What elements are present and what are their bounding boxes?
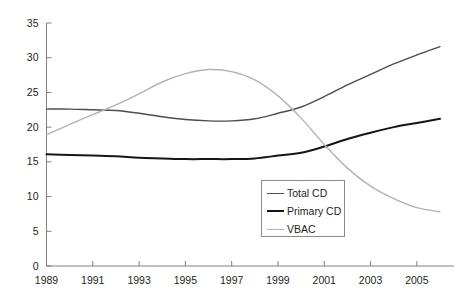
y-tick-label: 15 [17,156,39,167]
legend-swatch-total-cd [267,193,284,194]
y-tick-label: 25 [17,87,39,98]
x-tick-label: 2005 [396,275,438,286]
y-tick-label: 0 [17,261,39,272]
y-tick-label: 20 [17,122,39,133]
x-tick-label: 2003 [350,275,392,286]
x-tick-label: 1993 [118,275,160,286]
legend-label-vbac: VBAC [287,224,316,235]
series-line-primary-cd [47,119,441,159]
x-tick-label: 1999 [257,275,299,286]
legend-swatch-primary-cd [267,210,284,212]
y-tick-label: 10 [17,191,39,202]
chart-legend: Total CD Primary CD VBAC [261,180,345,237]
axis-lines [47,23,455,266]
legend-label-primary-cd: Primary CD [287,206,341,217]
plot-area [0,0,461,297]
x-tick-label: 2001 [303,275,345,286]
x-tick-label: 1989 [26,275,68,286]
legend-swatch-vbac [267,229,284,230]
legend-item-primary-cd: Primary CD [267,204,341,218]
legend-item-vbac: VBAC [267,222,316,236]
series-line-vbac [47,69,441,211]
legend-item-total-cd: Total CD [267,186,327,200]
axis-ticks [47,23,417,266]
y-tick-label: 5 [17,226,39,237]
x-tick-label: 1997 [211,275,253,286]
legend-label-total-cd: Total CD [287,188,327,199]
y-tick-label: 35 [17,18,39,29]
x-tick-label: 1995 [164,275,206,286]
x-tick-label: 1991 [72,275,114,286]
line-chart: 05101520253035 1989199119931995199719992… [0,0,461,297]
y-tick-label: 30 [17,52,39,63]
data-series-group [47,47,441,212]
